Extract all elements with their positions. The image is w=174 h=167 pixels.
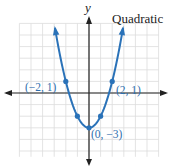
y-axis-down-arrow-icon: [86, 159, 92, 166]
data-point: [75, 114, 80, 119]
x-axis-right-arrow-icon: [160, 90, 168, 96]
y-axis-label: y: [85, 1, 91, 14]
y-axis-up-arrow-icon: [86, 16, 92, 24]
point-label-vertex: (0, −3): [91, 129, 122, 141]
point-label-right: (2, 1): [116, 85, 141, 97]
chart-title: Quadratic: [112, 12, 163, 25]
data-point: [63, 79, 68, 84]
y-axis: [86, 16, 92, 166]
point-label-left: (−2, 1): [25, 82, 56, 94]
data-point: [110, 79, 115, 84]
x-axis-left-arrow-icon: [4, 90, 12, 96]
data-point: [98, 114, 103, 119]
